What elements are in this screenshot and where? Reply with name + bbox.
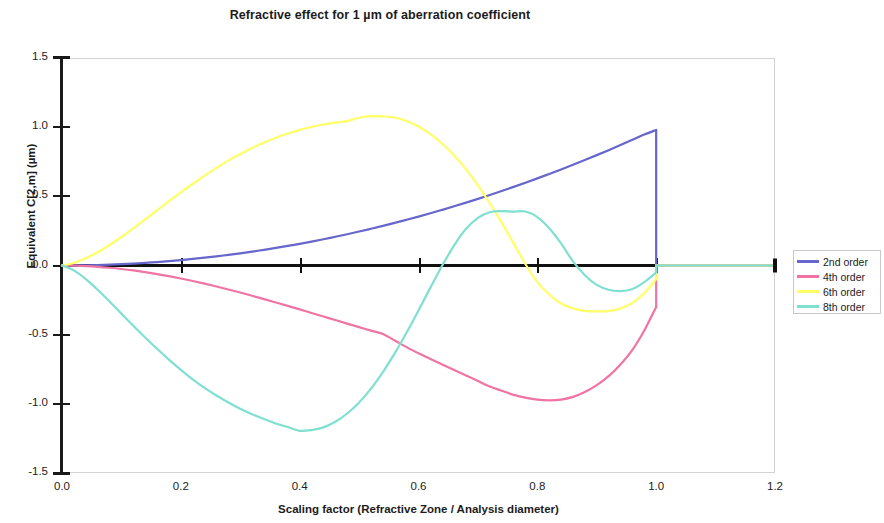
legend-color-swatch: [797, 275, 819, 278]
y-axis-title: Equivalent C[2,m] (µm): [25, 111, 37, 301]
x-axis-title: Scaling factor (Refractive Zone / Analys…: [62, 503, 775, 515]
y-axis-tick: [53, 195, 70, 197]
y-axis-tick-label: -1.0: [0, 396, 48, 408]
chart-title: Refractive effect for 1 µm of aberration…: [0, 8, 760, 22]
y-axis-tick-label: 0.5: [0, 188, 48, 200]
x-axis-tick-label: 1.0: [626, 480, 686, 492]
zero-line-tick: [181, 258, 183, 273]
legend-item[interactable]: 4th order: [797, 269, 878, 284]
x-axis-tick-label: 0.6: [389, 480, 449, 492]
legend-color-swatch: [797, 260, 819, 263]
x-axis-tick-label: 0.8: [507, 480, 567, 492]
legend-item-label: 6th order: [823, 286, 865, 298]
y-axis-tick-label: -1.5: [0, 465, 48, 477]
y-axis-tick: [53, 126, 70, 128]
x-axis-tick-label: 0.0: [32, 480, 92, 492]
legend-color-swatch: [797, 290, 819, 293]
legend-item[interactable]: 6th order: [797, 284, 878, 299]
legend-color-swatch: [797, 305, 819, 308]
x-axis-tick-label: 0.4: [270, 480, 330, 492]
y-axis-tick-label: 1.0: [0, 119, 48, 131]
legend-item-label: 8th order: [823, 301, 865, 313]
zero-reference-line: [62, 264, 656, 267]
y-axis-tick: [53, 57, 70, 59]
y-axis-tick-label: -0.5: [0, 327, 48, 339]
y-axis-tick: [53, 472, 70, 474]
legend-item-label: 2nd order: [823, 256, 868, 268]
legend: 2nd order4th order6th order8th order: [793, 250, 881, 314]
zero-line-tick: [419, 258, 421, 273]
y-axis-tick: [53, 334, 70, 336]
y-axis-tick-label: 0.0: [0, 258, 48, 270]
y-axis-tick-label: 1.5: [0, 50, 48, 62]
y-axis-tick: [53, 403, 70, 405]
zero-line-tick: [656, 258, 658, 273]
x-axis-tick-label: 0.2: [151, 480, 211, 492]
chart-root: Refractive effect for 1 µm of aberration…: [0, 0, 884, 523]
x-axis-tick-label: 1.2: [745, 480, 805, 492]
legend-item[interactable]: 2nd order: [797, 254, 878, 269]
legend-item-label: 4th order: [823, 271, 865, 283]
zero-line-tick: [537, 258, 539, 273]
zero-line-tick: [300, 258, 302, 273]
legend-item[interactable]: 8th order: [797, 299, 878, 314]
